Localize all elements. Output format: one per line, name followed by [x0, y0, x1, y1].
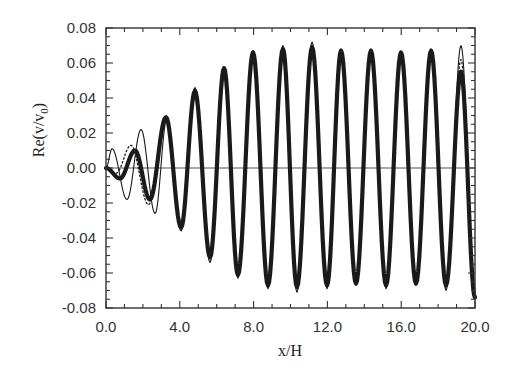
series-layer	[106, 42, 475, 298]
chart: 0.04.08.012.016.020.0 0.080.060.040.020.…	[0, 0, 520, 374]
y-tick-label: 0.00	[67, 159, 96, 176]
y-tick-label: -0.04	[62, 229, 96, 246]
y-tick-label: 0.02	[67, 124, 96, 141]
x-tick-labels: 0.04.08.012.016.020.0	[96, 318, 490, 335]
x-axis-title: x/H	[278, 342, 302, 359]
series-thick-solid	[106, 47, 475, 297]
x-tick-label: 8.0	[243, 318, 264, 335]
y-tick-label: -0.06	[62, 264, 96, 281]
y-axis-title-close: )	[30, 103, 48, 108]
y-tick-label: -0.02	[62, 194, 96, 211]
y-tick-label: 0.04	[67, 89, 96, 106]
y-axis-title-main: Re(v/v	[30, 114, 48, 158]
x-tick-label: 16.0	[387, 318, 416, 335]
y-axis-title: Re(v/v0)	[30, 103, 50, 157]
x-tick-label: 4.0	[169, 318, 190, 335]
x-tick-label: 12.0	[313, 318, 342, 335]
x-tick-label: 20.0	[460, 318, 489, 335]
y-tick-label: 0.08	[67, 19, 96, 36]
y-tick-label: -0.08	[62, 299, 96, 316]
y-tick-labels: 0.080.060.040.020.00-0.02-0.04-0.06-0.08	[62, 19, 96, 316]
x-tick-label: 0.0	[96, 318, 117, 335]
y-tick-label: 0.06	[67, 54, 96, 71]
